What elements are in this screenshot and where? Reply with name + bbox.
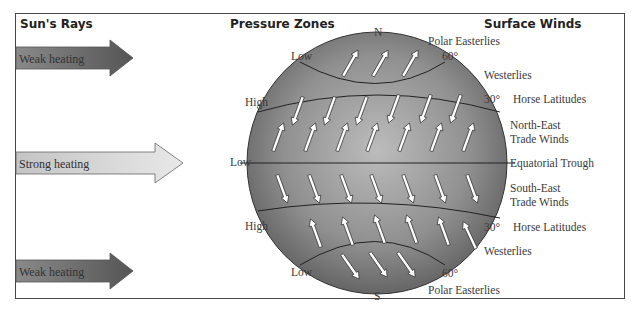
globe (240, 32, 515, 294)
label-weak-heating-south: Weak heating (19, 265, 84, 280)
label-equatorial-trough: Equatorial Trough (510, 157, 594, 169)
label-high-north: High (245, 96, 268, 108)
label-60-north: 60° (442, 50, 458, 62)
label-se-trade-1: South-East (510, 182, 560, 194)
label-polar-easterlies-south: Polar Easterlies (428, 284, 500, 296)
label-westerlies-south: Westerlies (484, 245, 532, 257)
label-ne-trade-2: Trade Winds (510, 133, 569, 145)
label-weak-heating-north: Weak heating (19, 52, 84, 67)
label-se-trade-2: Trade Winds (510, 196, 569, 208)
label-horse-latitudes-south: Horse Latitudes (513, 221, 586, 233)
label-low-equator: Low (230, 156, 251, 168)
label-north: N (374, 26, 382, 38)
label-horse-latitudes-north: Horse Latitudes (513, 93, 586, 105)
label-westerlies-north: Westerlies (484, 69, 532, 81)
label-polar-easterlies-north: Polar Easterlies (428, 35, 500, 47)
label-60-south: 60° (442, 267, 458, 279)
label-south: S (374, 290, 380, 302)
label-30-south: 30° (484, 221, 500, 233)
label-ne-trade-1: North-East (510, 119, 560, 131)
label-high-south: High (245, 220, 268, 232)
label-low-south: Low (291, 266, 312, 278)
label-strong-heating: Strong heating (19, 157, 89, 172)
label-30-north: 30° (484, 93, 500, 105)
label-low-north: Low (291, 50, 312, 62)
